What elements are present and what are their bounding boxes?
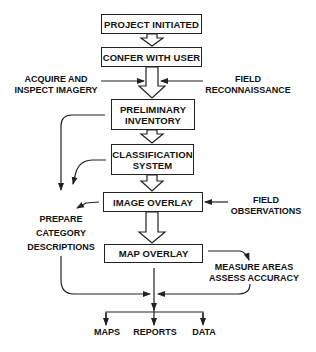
box-confer-with-user: CONFER WITH USER — [101, 47, 202, 67]
box-classification-system: CLASSIFICATION SYSTEM — [111, 144, 194, 175]
output-maps: MAPS — [92, 327, 122, 338]
box-label: CONFER WITH USER — [103, 52, 201, 63]
label-prepare-category-descriptions: PREPARE CATEGORY DESCRIPTIONS — [26, 212, 96, 254]
block-arrow-2 — [139, 67, 165, 98]
box-label: IMAGE OVERLAY — [113, 197, 193, 208]
output-reports: REPORTS — [131, 327, 179, 338]
box-project-initiated: PROJECT INITIATED — [101, 14, 202, 34]
box-preliminary-inventory: PRELIMINARY INVENTORY — [111, 99, 195, 130]
box-map-overlay: MAP OVERLAY — [104, 244, 203, 263]
label-measure-assess: MEASURE AREAS ASSESS ACCURACY — [206, 262, 302, 284]
box-label-line1: CLASSIFICATION — [112, 149, 192, 160]
box-label-line2: SYSTEM — [133, 160, 173, 171]
label-acquire-imagery: ACQUIRE AND INSPECT IMAGERY — [12, 74, 100, 96]
block-arrow-4 — [141, 175, 163, 191]
box-label-line2: INVENTORY — [125, 115, 181, 126]
label-field-reconnaissance: FIELD RECONNAISSANCE — [204, 74, 292, 96]
flowchart-canvas: PROJECT INITIATED CONFER WITH USER PRELI… — [0, 0, 316, 352]
output-data: DATA — [189, 327, 219, 338]
box-label: MAP OVERLAY — [119, 248, 189, 259]
block-arrow-1 — [141, 34, 163, 46]
box-image-overlay: IMAGE OVERLAY — [103, 192, 203, 212]
box-label: PROJECT INITIATED — [104, 19, 199, 30]
box-label-line1: PRELIMINARY — [120, 104, 186, 115]
block-arrow-5 — [139, 212, 165, 243]
block-arrow-3 — [141, 130, 163, 143]
label-field-observations: FIELD OBSERVATIONS — [228, 195, 304, 217]
